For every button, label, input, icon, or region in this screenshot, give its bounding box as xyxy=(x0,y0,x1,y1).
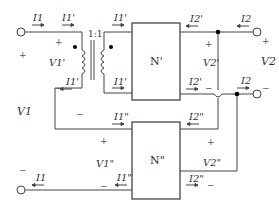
transformer-ratio: 1:1 xyxy=(88,30,102,39)
current-i1p-primary-top: I1' xyxy=(62,13,75,23)
current-i1-bottom: I1 xyxy=(36,173,46,183)
v2p-plus-sign: + xyxy=(205,40,213,49)
current-i1p-secondary-bottom: I1' xyxy=(114,77,127,87)
v2-minus-sign: − xyxy=(262,84,270,93)
voltage-v2-prime: V2' xyxy=(203,58,219,68)
voltage-v1-double-prime: V1" xyxy=(96,159,114,169)
current-i2-top: I2 xyxy=(241,14,251,24)
primary-minus-sign: − xyxy=(76,110,84,119)
current-i2p-bottom: I2' xyxy=(189,77,202,87)
v2p-minus-sign: − xyxy=(205,84,213,93)
v2-plus-sign: + xyxy=(262,37,270,46)
v1p-plus-sign: + xyxy=(55,38,63,47)
network-n-prime-label: N' xyxy=(150,56,163,67)
current-i1p-secondary-top: I1' xyxy=(114,13,127,23)
v1-minus-sign: − xyxy=(19,166,27,175)
current-i2p-top: I2' xyxy=(190,14,203,24)
voltage-v1: V1 xyxy=(17,106,32,117)
voltage-v2-double-prime: V2" xyxy=(203,158,221,168)
v1p-minus-sign: − xyxy=(55,84,63,93)
voltage-v2: V2 xyxy=(261,56,276,67)
v1pp-plus-sign: + xyxy=(100,137,108,146)
current-i1p-primary-bottom: I1' xyxy=(66,77,79,87)
voltage-v1-prime: V1' xyxy=(49,58,65,68)
current-i1-top: I1 xyxy=(33,13,43,23)
current-i2pp-top: I2" xyxy=(189,112,204,122)
v2pp-plus-sign: + xyxy=(207,138,215,147)
v2pp-minus-sign: − xyxy=(207,181,215,190)
current-i1pp-bottom: I1" xyxy=(117,173,132,183)
current-i2pp-bottom: I2" xyxy=(189,174,204,184)
network-n-double-prime-label: N" xyxy=(150,155,165,166)
v1-plus-sign: + xyxy=(19,51,27,60)
current-i1pp-top: I1" xyxy=(114,112,129,122)
current-i2-bottom: I2 xyxy=(241,76,251,86)
v1pp-minus-sign: − xyxy=(100,182,108,191)
